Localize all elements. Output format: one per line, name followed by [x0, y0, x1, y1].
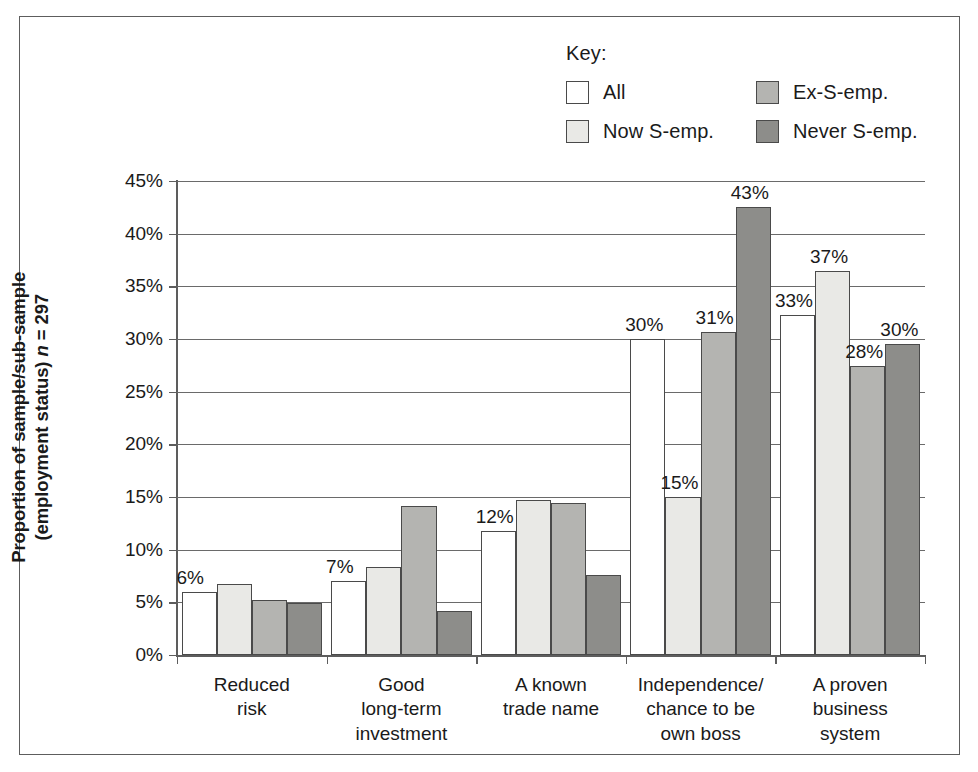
legend-label-never-s-emp: Never S-emp. [793, 120, 918, 143]
y-axis-tick-label: 0% [93, 644, 163, 666]
y-axis-title-line2-pre: (employment status) [31, 357, 52, 541]
y-axis-tick-label: 10% [93, 539, 163, 561]
y-axis-tick [169, 392, 177, 393]
y-axis-title: Proportion of sample/sub-sample (employm… [7, 187, 54, 647]
bar-value-label: 28% [845, 341, 883, 363]
legend-label-all: All [603, 81, 626, 104]
bar [780, 315, 815, 655]
y-axis-title-n-symbol: n [31, 345, 52, 356]
y-axis-tick [169, 181, 177, 182]
y-axis-tick-label: 30% [93, 328, 163, 350]
legend-title: Key: [566, 42, 607, 65]
bar [217, 584, 252, 655]
bar [516, 500, 551, 655]
bar-value-label: 30% [625, 314, 663, 336]
legend-label-now-s-emp: Now S-emp. [603, 120, 714, 143]
legend-item-now-s-emp: Now S-emp. [566, 120, 714, 143]
bar [815, 271, 850, 655]
legend-item-all: All [566, 81, 626, 104]
legend-item-ex-s-emp: Ex-S-emp. [756, 81, 888, 104]
bar [366, 567, 401, 655]
x-axis-tick [476, 655, 477, 664]
bar-value-label: 33% [775, 290, 813, 312]
x-axis-tick [177, 655, 178, 664]
y-axis-tick [169, 444, 177, 445]
bar-value-label: 43% [731, 182, 769, 204]
x-axis-tick [925, 655, 926, 664]
y-axis-tick [169, 497, 177, 498]
legend-swatch-never-s-emp [756, 120, 779, 143]
bar-value-label: 30% [880, 319, 918, 341]
x-axis-category-label: Reduced risk [167, 673, 337, 722]
bar-value-label: 15% [660, 472, 698, 494]
y-axis-tick-label: 45% [93, 170, 163, 192]
legend-item-never-s-emp: Never S-emp. [756, 120, 918, 143]
legend-label-ex-s-emp: Ex-S-emp. [793, 81, 888, 104]
x-axis-category-label: Good long-term investment [317, 673, 487, 746]
gridline [177, 286, 925, 287]
bar [551, 503, 586, 655]
bar-value-label: 7% [326, 556, 353, 578]
bar-value-label: 31% [696, 307, 734, 329]
bar-value-label: 6% [177, 567, 204, 589]
bar [401, 506, 436, 655]
bar [630, 339, 665, 655]
y-axis-tick [169, 339, 177, 340]
y-axis-tick-label: 40% [93, 223, 163, 245]
y-axis-tick-label: 35% [93, 275, 163, 297]
gridline [177, 234, 925, 235]
bar [182, 592, 217, 655]
bar [481, 531, 516, 655]
x-axis-category-label: A proven business system [765, 673, 935, 746]
bar-value-label: 12% [476, 506, 514, 528]
y-axis-tick [169, 550, 177, 551]
y-axis-tick-label: 5% [93, 591, 163, 613]
y-axis-tick-label: 15% [93, 486, 163, 508]
y-axis-title-line2-post: = 297 [31, 294, 52, 345]
y-axis-tick [169, 286, 177, 287]
bar [701, 332, 736, 655]
x-axis-category-label: Independence/ chance to be own boss [616, 673, 786, 746]
y-axis-tick-label: 20% [93, 433, 163, 455]
y-axis-tick-label: 25% [93, 381, 163, 403]
bar [885, 344, 920, 655]
bar [252, 600, 287, 655]
legend-swatch-all [566, 81, 589, 104]
bar [586, 575, 621, 655]
legend-swatch-ex-s-emp [756, 81, 779, 104]
figure-root: Key: All Now S-emp. Ex-S-emp. Never S-em… [0, 0, 978, 772]
y-axis-title-wrap: Proportion of sample/sub-sample (employm… [0, 170, 60, 650]
bar [287, 603, 322, 655]
bar [437, 611, 472, 655]
chart-legend: Key: All Now S-emp. Ex-S-emp. Never S-em… [560, 42, 950, 158]
bar [736, 207, 771, 655]
bar-value-label: 37% [810, 246, 848, 268]
gridline [177, 181, 925, 182]
x-axis-line [176, 655, 926, 657]
y-axis-tick [169, 234, 177, 235]
bar [665, 497, 700, 655]
x-axis-tick [775, 655, 776, 664]
x-axis-tick [626, 655, 627, 664]
bar [331, 581, 366, 655]
y-axis-tick [169, 655, 177, 656]
y-axis-tick [169, 602, 177, 603]
legend-swatch-now-s-emp [566, 120, 589, 143]
x-axis-tick [327, 655, 328, 664]
bar [850, 366, 885, 655]
x-axis-category-label: A known trade name [466, 673, 636, 722]
plot-area: 0%5%10%15%20%25%30%35%40%45% 6%7%12%30%1… [177, 181, 925, 655]
y-axis-title-line1: Proportion of sample/sub-sample [8, 272, 29, 563]
